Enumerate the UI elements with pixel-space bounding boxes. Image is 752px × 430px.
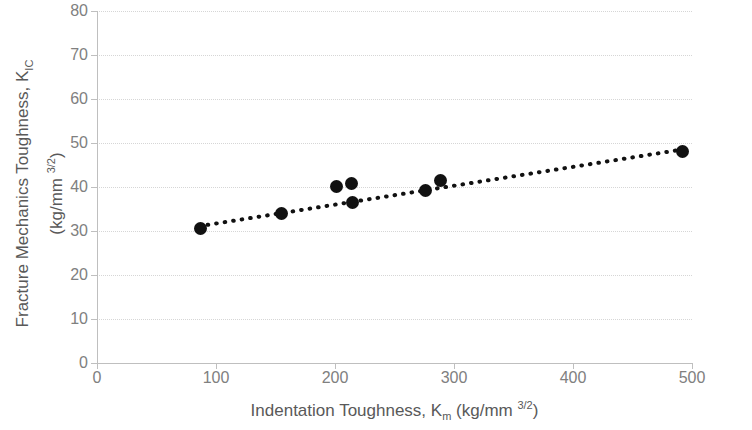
y-axis-title-subscript: IC xyxy=(23,60,35,71)
y-axis-title-main: Fracture Mechanics Toughness, K xyxy=(13,71,32,328)
y-tick-label: 50 xyxy=(42,135,88,151)
x-tick-label: 0 xyxy=(67,370,127,386)
y-tick-label: 40 xyxy=(42,179,88,195)
x-tick-label: 500 xyxy=(662,370,722,386)
y-tick-label: 0 xyxy=(42,355,88,371)
data-point xyxy=(419,184,432,197)
trendline xyxy=(97,11,692,363)
data-point xyxy=(330,180,343,193)
plot-area xyxy=(97,11,692,363)
x-tick-label: 400 xyxy=(543,370,603,386)
scatter-chart: Fracture Mechanics Toughness, KIC (kg/mm… xyxy=(0,0,752,430)
y-tick-label: 20 xyxy=(42,267,88,283)
x-tick-label: 100 xyxy=(186,370,246,386)
x-tick-label: 300 xyxy=(424,370,484,386)
x-axis-title-main: Indentation Toughness, K xyxy=(251,401,443,420)
y-tick-label: 30 xyxy=(42,223,88,239)
y-tick-label-group: 80 70 60 50 40 30 20 10 0 xyxy=(36,0,88,430)
x-tick-label: 200 xyxy=(305,370,365,386)
y-tick-label: 60 xyxy=(42,91,88,107)
y-tick-label: 70 xyxy=(42,47,88,63)
x-axis-unit-suffix: ) xyxy=(533,401,539,420)
x-axis-title-subscript: m xyxy=(442,410,451,422)
data-point xyxy=(345,177,358,190)
y-tick-label: 10 xyxy=(42,311,88,327)
x-axis-title: Indentation Toughness, Km (kg/mm 3/2) xyxy=(97,399,692,422)
x-axis-unit-superscript: 3/2 xyxy=(517,399,532,411)
x-axis-line xyxy=(97,363,693,364)
x-axis-unit-prefix: (kg/mm xyxy=(451,401,517,420)
y-axis-line xyxy=(97,11,98,363)
y-tick-label: 80 xyxy=(42,3,88,19)
